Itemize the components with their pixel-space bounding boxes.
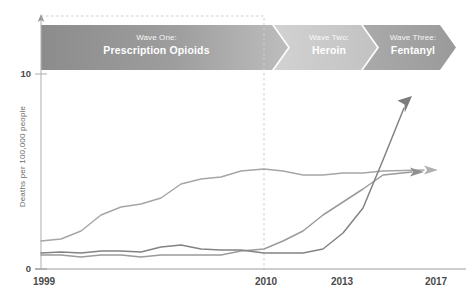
series-lines xyxy=(41,96,438,257)
wave-one-shape xyxy=(41,25,288,70)
series-arrow-prescription-opioids xyxy=(424,165,438,174)
x-tick-label-2017: 2017 xyxy=(413,276,459,287)
series-line-prescription-opioids[interactable] xyxy=(41,169,424,241)
x-tick-label-2013: 2013 xyxy=(319,276,365,287)
y-axis-title: Deaths per 100,000 people xyxy=(18,72,27,242)
chart-canvas xyxy=(0,0,473,303)
chart-root: Wave One: Prescription Opioids Wave Two:… xyxy=(0,0,473,303)
wave-two-shape xyxy=(274,25,377,70)
series-line-fentanyl[interactable] xyxy=(41,108,404,253)
series-line-heroin[interactable] xyxy=(41,172,412,257)
wave-banner xyxy=(41,25,456,70)
x-tick-label-1999: 1999 xyxy=(21,276,67,287)
series-arrow-fentanyl xyxy=(398,96,413,113)
x-tick-label-2010: 2010 xyxy=(243,276,289,287)
y-tick-label-0: 0 xyxy=(0,263,31,274)
y-tick-label-10: 10 xyxy=(0,68,31,79)
